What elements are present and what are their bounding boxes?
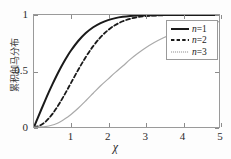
legend-line-dotted-icon — [170, 47, 190, 57]
x-tick-mark-top — [109, 15, 110, 19]
legend-label-n2: n=2 — [192, 35, 207, 45]
y-tick-label-1: 0.5 — [0, 64, 28, 76]
x-tick-mark — [221, 123, 222, 127]
y-tick-label-2: 1 — [0, 8, 28, 20]
y-tick-mark-right — [215, 128, 219, 129]
x-tick-mark — [109, 123, 110, 127]
legend: n=1 n=2 n=3 — [166, 20, 218, 60]
x-axis-label: χ — [0, 140, 231, 155]
y-tick-mark — [34, 15, 38, 16]
x-tick-mark-top — [71, 15, 72, 19]
legend-label-n1: n=1 — [192, 24, 207, 34]
legend-item-n2: n=2 — [170, 35, 214, 47]
x-tick-mark — [146, 123, 147, 127]
x-tick-mark — [71, 123, 72, 127]
legend-item-n1: n=1 — [170, 23, 214, 35]
legend-line-dashed-icon — [170, 35, 190, 45]
x-tick-mark-top — [184, 15, 185, 19]
y-tick-label-0: 0 — [0, 121, 28, 133]
x-tick-mark-top — [221, 15, 222, 19]
y-tick-mark-right — [215, 15, 219, 16]
legend-label-n3: n=3 — [192, 47, 207, 57]
chart-figure: 累积伽马分布 0 0.5 1 1 2 3 4 5 χ n=1 — [0, 0, 231, 159]
legend-value-n1: =1 — [197, 24, 207, 34]
x-tick-mark — [184, 123, 185, 127]
legend-item-n3: n=3 — [170, 46, 214, 58]
x-tick-mark-top — [146, 15, 147, 19]
legend-line-solid-icon — [170, 24, 190, 34]
legend-value-n3: =3 — [197, 47, 207, 57]
y-tick-mark — [34, 72, 38, 73]
legend-value-n2: =2 — [197, 35, 207, 45]
y-tick-mark — [34, 128, 38, 129]
y-tick-mark-right — [215, 72, 219, 73]
